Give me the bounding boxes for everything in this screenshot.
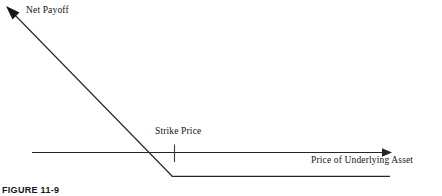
strike-price-label: Strike Price [155, 126, 201, 136]
figure-caption: FIGURE 11-9 [2, 185, 59, 196]
payoff-curve [6, 6, 390, 176]
payoff-sloping-segment [11, 11, 172, 176]
payoff-chart-svg [0, 0, 442, 196]
net-payoff-axis-label: Net Payoff [26, 5, 69, 15]
price-of-underlying-asset-axis-label: Price of Underlying Asset [311, 155, 413, 165]
payoff-diagram-figure: Net Payoff Strike Price Price of Underly… [0, 0, 442, 196]
